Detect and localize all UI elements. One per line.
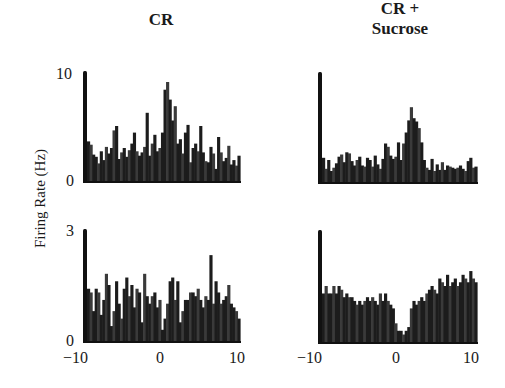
title-cr-sucrose-line1: CR + bbox=[350, 0, 450, 19]
histogram-bar bbox=[474, 282, 477, 342]
y-axis-line bbox=[83, 229, 87, 343]
xtick-right-min: −10 bbox=[297, 350, 322, 366]
histogram-cr-top bbox=[83, 70, 241, 183]
xtick-left-mid: 0 bbox=[156, 350, 164, 366]
y-axis-line bbox=[318, 230, 322, 344]
xtick-right-max: 10 bbox=[463, 350, 479, 366]
ytick-bottom-max: 3 bbox=[66, 223, 74, 239]
x-axis-line bbox=[318, 342, 478, 344]
histogram-bar bbox=[474, 167, 477, 182]
y-axis-line bbox=[83, 71, 87, 183]
x-axis-line bbox=[83, 341, 241, 343]
histogram-cr-bottom bbox=[83, 228, 241, 343]
ytick-bottom-min: 0 bbox=[66, 333, 74, 349]
histogram-bar bbox=[237, 319, 240, 341]
x-axis-line bbox=[83, 181, 241, 183]
xtick-right-mid: 0 bbox=[392, 350, 400, 366]
title-cr-sucrose: CR + Sucrose bbox=[350, 0, 450, 39]
xtick-left-min: −10 bbox=[63, 350, 88, 366]
title-cr-sucrose-line2: Sucrose bbox=[350, 19, 450, 39]
histogram-cr-sucrose-bottom bbox=[318, 229, 478, 344]
ytick-top-max: 10 bbox=[56, 66, 72, 82]
histogram-bar bbox=[237, 156, 240, 181]
xtick-left-max: 10 bbox=[229, 350, 245, 366]
title-cr: CR bbox=[121, 10, 201, 30]
y-axis-label: Firing Rate (Hz) bbox=[32, 129, 49, 269]
x-axis-line bbox=[318, 182, 478, 184]
histogram-cr-sucrose-top bbox=[318, 71, 478, 184]
y-axis-line bbox=[318, 72, 322, 184]
ytick-top-min: 0 bbox=[66, 173, 74, 189]
